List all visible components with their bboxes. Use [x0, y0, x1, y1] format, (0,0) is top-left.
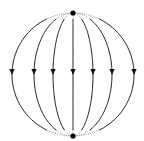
arrow-down-icon: [70, 69, 75, 75]
arrow-down-icon: [131, 69, 136, 75]
top-charge: [70, 10, 75, 15]
dotted-segment: [73, 13, 99, 19]
arrow-down-icon: [31, 69, 36, 75]
bottom-charge: [70, 133, 75, 138]
field-line: [99, 19, 134, 130]
direction-arrows: [9, 69, 136, 75]
arrow-down-icon: [90, 69, 95, 75]
field-line: [53, 19, 64, 130]
arrow-down-icon: [50, 69, 55, 75]
field-line: [82, 19, 93, 130]
field-line-diagram: [0, 0, 144, 141]
arrow-down-icon: [109, 69, 114, 75]
field-line: [12, 19, 47, 130]
arrow-down-icon: [9, 69, 14, 75]
dotted-segment: [47, 13, 73, 19]
